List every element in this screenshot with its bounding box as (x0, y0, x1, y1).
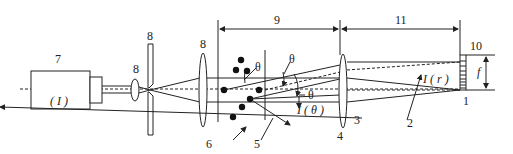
label-center-detector: 1 (463, 95, 469, 107)
small-lens (131, 79, 139, 101)
collimating-lens (199, 53, 207, 127)
label-particles: 6 (206, 138, 212, 150)
label-scattered-light: 2 (407, 117, 413, 129)
label-collimating-lens: 8 (200, 38, 206, 50)
label-fourier-lens: 4 (337, 130, 343, 142)
label-intensity-theta: I ( θ ) (297, 104, 324, 116)
laser-connector (90, 77, 102, 103)
label-theta-1: θ (255, 61, 261, 73)
label-theta-3: θ (308, 89, 314, 101)
label-unscattered-beam: 3 (354, 114, 360, 126)
label-small-lens: 8 (133, 63, 139, 75)
label-laser-symbol: ( I ) (50, 95, 68, 107)
label-focal-length: f (477, 66, 480, 78)
label-theta-2: θ (289, 53, 295, 65)
label-scattered-ray: 5 (254, 138, 260, 150)
label-measurement-zone: 9 (274, 14, 280, 26)
label-fourier-distance: 11 (395, 14, 407, 26)
label-detector: 10 (470, 40, 482, 52)
label-laser: 7 (55, 53, 61, 65)
label-pinhole: 8 (147, 30, 153, 42)
label-intensity-r: I ( r ) (423, 73, 449, 85)
